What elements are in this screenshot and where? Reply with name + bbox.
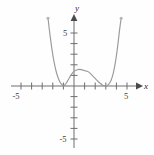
y-axis-label: y <box>74 3 79 13</box>
graph-figure: -5 5 5 -5 x y <box>0 0 154 155</box>
y-tick-label-5: 5 <box>63 28 67 38</box>
x-tick-label--5: -5 <box>12 91 19 101</box>
x-tick-label-5: 5 <box>124 91 128 101</box>
curve-left-endcap <box>47 17 50 20</box>
x-axis-label: x <box>143 81 148 91</box>
y-tick-label--5: -5 <box>59 134 66 144</box>
y-axis-arrow-icon <box>71 14 78 21</box>
quartic-curve <box>48 18 121 86</box>
curve-right-endcap <box>120 17 123 20</box>
coordinate-plane-svg: -5 5 5 -5 x y <box>0 0 154 155</box>
x-axis-arrow-icon <box>136 83 143 90</box>
